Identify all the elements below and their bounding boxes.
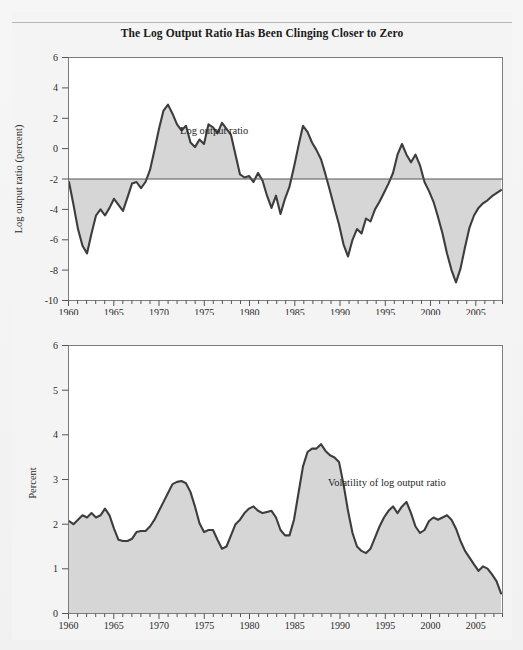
- top-xtick: 1985: [285, 307, 305, 315]
- bottom-series-annotation: Volatility of log output ratio: [328, 477, 446, 488]
- top-xtick: 1965: [104, 307, 124, 315]
- bottom-xtick: 1990: [330, 620, 350, 631]
- top-ytick: -8: [50, 265, 58, 276]
- bottom-x-ticklabels: 1960 1965 1970 1975 1980 1985 1990 1995 …: [59, 620, 486, 631]
- bottom-ytick: 4: [53, 429, 58, 440]
- top-x-ticklabels: 1960 1965 1970 1975 1980 1985 1990 1995 …: [59, 307, 486, 315]
- chart-panel-log-output-ratio: 6 4 2 0 -2 -4 -6 -8 -10 Log output ratio…: [0, 45, 523, 315]
- bottom-ytick: 5: [53, 385, 58, 396]
- top-xtick: 1975: [194, 307, 214, 315]
- chart-panel-volatility: 6 5 4 3 2 1 0 Percent Volatility of log …: [0, 333, 523, 633]
- bottom-chart-svg: 6 5 4 3 2 1 0 Percent Volatility of log …: [0, 333, 523, 633]
- bottom-xtick: 1970: [149, 620, 169, 631]
- bottom-x-minor-ticks: [69, 614, 503, 620]
- top-ytick: -10: [45, 295, 58, 306]
- top-xtick: 2005: [466, 307, 486, 315]
- page-background: The Log Output Ratio Has Been Clinging C…: [0, 0, 523, 650]
- bottom-y-ticks: [62, 346, 69, 614]
- top-xtick: 1970: [149, 307, 169, 315]
- bottom-xtick: 1985: [285, 620, 305, 631]
- top-ytick: 2: [53, 113, 58, 124]
- top-y-ticks: [62, 58, 69, 301]
- bottom-xtick: 1960: [59, 620, 79, 631]
- top-ytick: 6: [53, 52, 58, 63]
- top-chart-svg: 6 4 2 0 -2 -4 -6 -8 -10 Log output ratio…: [0, 45, 523, 315]
- bottom-ytick: 1: [53, 563, 58, 574]
- top-ytick: 0: [53, 143, 58, 154]
- top-series-annotation: Log output ratio: [180, 125, 248, 136]
- top-xtick: 1990: [330, 307, 350, 315]
- figure-title: The Log Output Ratio Has Been Clinging C…: [12, 27, 512, 39]
- header-divider: [12, 22, 512, 23]
- top-ytick: -6: [50, 234, 58, 245]
- bottom-ytick: 3: [53, 474, 58, 485]
- bottom-xtick: 1965: [104, 620, 124, 631]
- bottom-ytick: 0: [53, 608, 58, 619]
- top-ytick: 4: [53, 82, 58, 93]
- bottom-xtick: 2005: [466, 620, 486, 631]
- top-xtick: 1980: [240, 307, 260, 315]
- bottom-y-ticklabels: 6 5 4 3 2 1 0: [53, 340, 58, 619]
- top-y-ticklabels: 6 4 2 0 -2 -4 -6 -8 -10: [45, 52, 58, 306]
- top-ytick: -2: [50, 174, 58, 185]
- top-x-minor-ticks: [69, 301, 503, 307]
- bottom-xtick: 1995: [375, 620, 395, 631]
- bottom-xtick: 1980: [240, 620, 260, 631]
- bottom-xtick: 1975: [194, 620, 214, 631]
- top-xtick: 1960: [59, 307, 79, 315]
- top-ytick: -4: [50, 204, 58, 215]
- bottom-xtick: 2000: [421, 620, 441, 631]
- bottom-ytick: 2: [53, 519, 58, 530]
- top-xtick: 2000: [421, 307, 441, 315]
- top-xtick: 1995: [375, 307, 395, 315]
- top-y-axis-title: Log output ratio (percent): [13, 124, 25, 233]
- bottom-ytick: 6: [53, 340, 58, 351]
- bottom-y-axis-title: Percent: [27, 467, 38, 499]
